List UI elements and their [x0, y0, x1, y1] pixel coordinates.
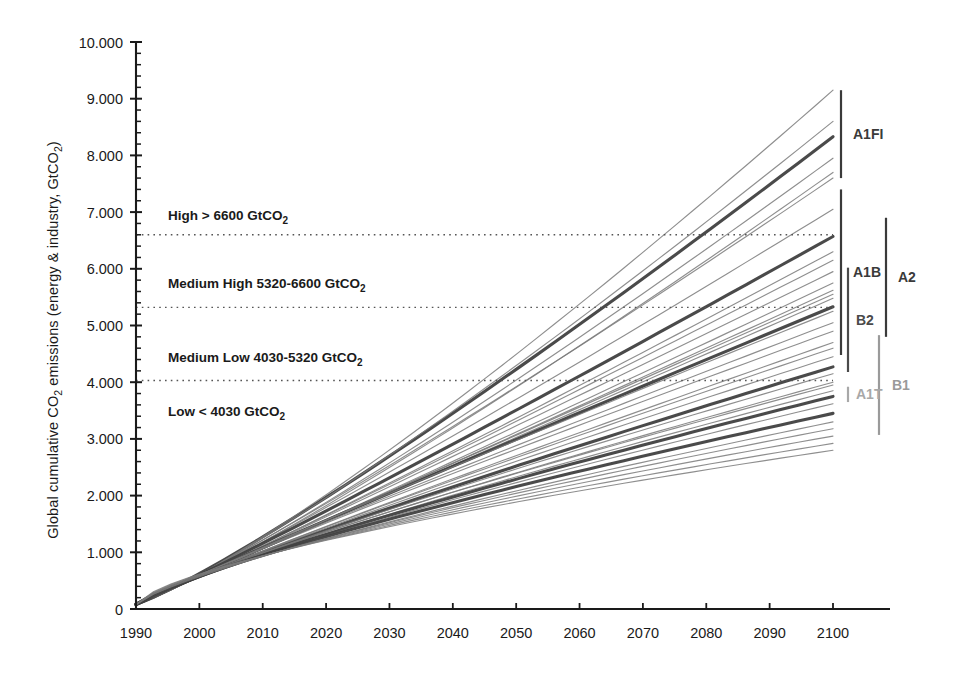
- x-tick-label: 2030: [373, 625, 405, 641]
- x-tick-label: 2020: [310, 625, 342, 641]
- y-tick-label: 4.000: [87, 375, 123, 391]
- axes-group: [130, 41, 890, 609]
- y-tick-label: 1.000: [87, 545, 123, 561]
- band-annotation: Medium High 5320-6600 GtCO2: [168, 276, 366, 294]
- family-bracket-label: B2: [856, 312, 874, 328]
- scenario-line: [136, 450, 833, 604]
- y-tick-label: 10.000: [79, 35, 123, 51]
- x-tick-label: 2060: [563, 625, 595, 641]
- x-tick-labels-group: 1990200020102020203020402050206020702080…: [120, 625, 849, 641]
- scenario-line: [136, 357, 833, 605]
- y-tick-label: 8.000: [87, 148, 123, 164]
- y-tick-labels-group: 01.0002.0003.0004.0005.0006.0007.0008.00…: [79, 35, 123, 618]
- scenario-line: [136, 90, 833, 604]
- x-tick-label: 2100: [817, 625, 849, 641]
- x-tick-label: 2070: [627, 625, 659, 641]
- y-tick-label: 5.000: [87, 318, 123, 334]
- chart-figure: 01.0002.0003.0004.0005.0006.0007.0008.00…: [0, 0, 958, 680]
- y-tick-label: 2.000: [87, 488, 123, 504]
- band-annotations-group: High > 6600 GtCO2Medium High 5320-6600 G…: [168, 208, 366, 422]
- scenario-line: [136, 404, 833, 605]
- family-bracket-label: A2: [898, 269, 916, 285]
- band-annotation: Low < 4030 GtCO2: [168, 404, 285, 422]
- x-tick-label: 2010: [247, 625, 279, 641]
- family-bracket-label: A1T: [856, 386, 883, 402]
- y-tick-label: 6.000: [87, 261, 123, 277]
- scenario-line: [136, 343, 833, 605]
- scenario-lines-group: [136, 90, 833, 604]
- family-bracket-label: B1: [892, 377, 910, 393]
- y-tick-label: 0: [115, 602, 123, 618]
- family-bracket-label: A1FI: [853, 126, 883, 142]
- x-tick-label: 2050: [500, 625, 532, 641]
- y-tick-label: 7.000: [87, 205, 123, 221]
- band-annotation: Medium Low 4030-5320 GtCO2: [168, 350, 363, 368]
- family-bracket-label: A1B: [853, 264, 881, 280]
- x-tick-label: 2090: [754, 625, 786, 641]
- x-tick-label: 2080: [690, 625, 722, 641]
- x-tick-label: 2040: [437, 625, 469, 641]
- band-annotation: High > 6600 GtCO2: [168, 208, 288, 226]
- x-tick-label: 2000: [183, 625, 215, 641]
- y-tick-label: 9.000: [87, 91, 123, 107]
- scenario-line: [136, 137, 833, 605]
- y-tick-label: 3.000: [87, 431, 123, 447]
- x-tick-label: 1990: [120, 625, 152, 641]
- scenario-line: [136, 158, 833, 604]
- scenario-line: [136, 413, 833, 604]
- family-brackets-group: A1FIA1BA2B2B1A1T: [841, 90, 916, 435]
- chart-canvas: 01.0002.0003.0004.0005.0006.0007.0008.00…: [0, 0, 958, 680]
